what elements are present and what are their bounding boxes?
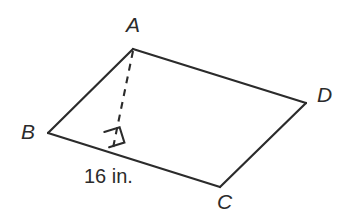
vertex-label-d: D — [317, 84, 332, 105]
base-length-label: 16 in. — [84, 166, 133, 186]
vertex-label-b: B — [21, 121, 35, 142]
vertex-label-a: A — [126, 14, 140, 35]
vertex-label-c: C — [217, 191, 232, 212]
edge-AB — [48, 49, 133, 133]
edge-DA — [133, 49, 306, 103]
geometry-figure: A B C D 16 in. — [0, 0, 345, 223]
edge-CD — [220, 103, 306, 187]
edge-BC — [48, 133, 220, 187]
figure-canvas — [0, 0, 345, 223]
